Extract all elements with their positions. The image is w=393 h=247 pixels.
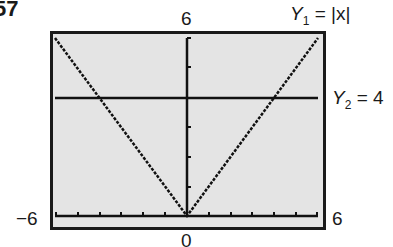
graph-plot [0,0,393,247]
